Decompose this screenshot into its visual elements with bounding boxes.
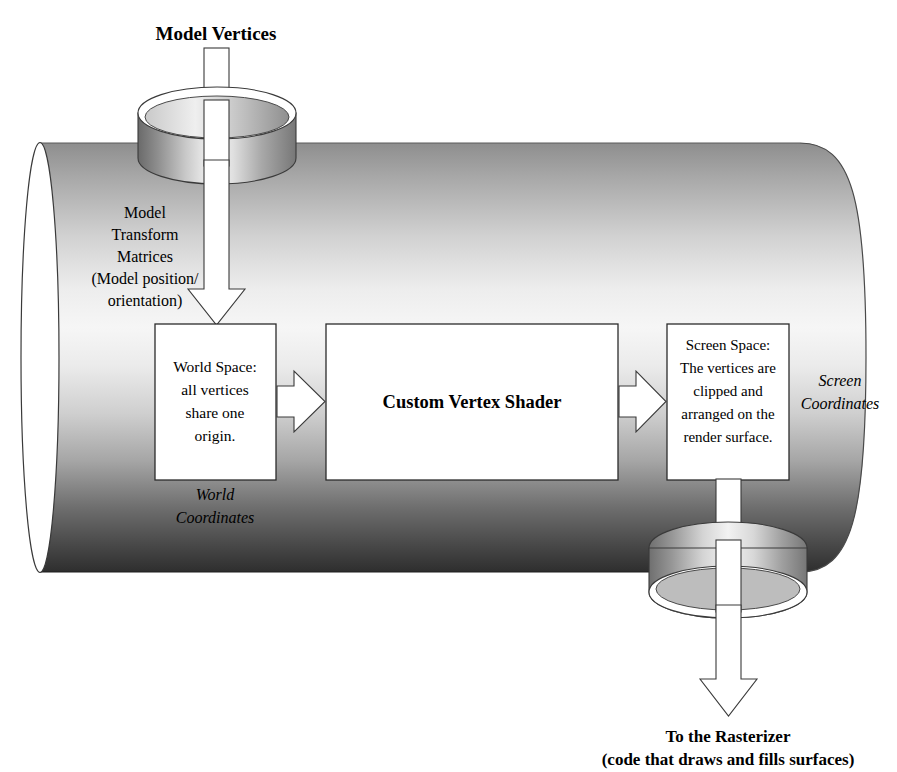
outlet-shaft-through xyxy=(716,540,741,612)
label-line: Matrices xyxy=(117,248,173,265)
arrow-down-to-rasterizer-icon xyxy=(700,605,757,716)
label-line: (Model position/ xyxy=(91,270,199,288)
pipe-left-endcap xyxy=(21,143,59,573)
caption-line: Coordinates xyxy=(801,395,880,412)
footer-rasterizer-description: (code that draws and fills surfaces) xyxy=(602,750,855,769)
box-line: Screen Space: xyxy=(686,337,771,353)
label-line: Model xyxy=(124,204,166,221)
box-line: all vertices xyxy=(181,381,249,398)
box-line: share one xyxy=(186,404,245,421)
box-custom-vertex-shader-text: Custom Vertex Shader xyxy=(383,392,562,412)
box-line: World Space: xyxy=(173,358,257,375)
box-line: origin. xyxy=(195,427,236,444)
arrow-down-shaft-through-inlet xyxy=(204,100,229,166)
label-line: Transform xyxy=(112,226,180,243)
pipeline-diagram-canvas: Model Vertices Model Transform Matrices … xyxy=(0,0,897,772)
footer-to-the-rasterizer: To the Rasterizer xyxy=(666,727,791,746)
diagram-root: Model Vertices Model Transform Matrices … xyxy=(0,0,897,772)
title-model-vertices: Model Vertices xyxy=(156,23,277,44)
box-line: The vertices are xyxy=(680,360,776,376)
box-line: arranged on the xyxy=(681,406,775,422)
label-line: orientation) xyxy=(108,292,183,310)
box-line: render surface. xyxy=(683,429,772,445)
box-line: clipped and xyxy=(693,383,763,399)
caption-line: Screen xyxy=(819,372,862,389)
box-world-space[interactable] xyxy=(155,324,276,480)
caption-line: World xyxy=(196,486,236,503)
caption-line: Coordinates xyxy=(176,509,255,526)
